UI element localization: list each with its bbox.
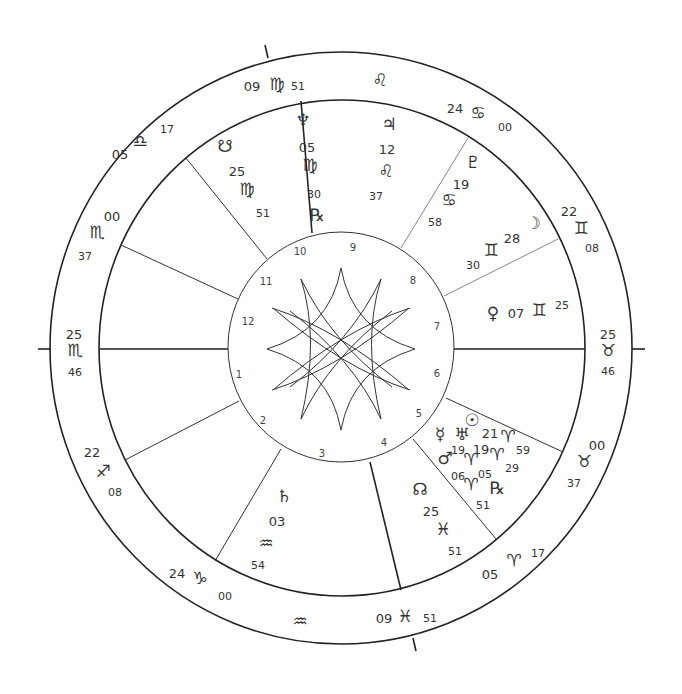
aries-icon: ♈ (500, 428, 515, 445)
mc-minutes: 51 (291, 81, 305, 92)
retrograde-icon: ℞ (309, 207, 324, 224)
dsc-minutes: 46 (601, 366, 615, 377)
ic-minutes: 51 (423, 613, 437, 624)
saturn-minutes: 54 (251, 560, 265, 571)
virgo-icon: ♍ (302, 157, 317, 174)
cusp-9-minutes: 00 (498, 122, 512, 133)
libra-icon: ♎ (132, 133, 147, 150)
aries-icon: ♈ (463, 451, 478, 468)
retrograde-icon: ℞ (489, 480, 504, 497)
cusp-8 (444, 239, 558, 296)
capricorn-icon: ♑ (192, 570, 207, 587)
gemini-icon: ♊ (573, 220, 588, 237)
virgo-icon: ♍ (239, 181, 254, 198)
moon-degree: 28 (504, 232, 521, 245)
natal-chart-wheel (0, 0, 682, 694)
virgo-icon: ♍ (269, 76, 284, 93)
mc-degree: 09 (244, 80, 261, 93)
jupiter-minutes: 37 (369, 191, 383, 202)
cusp-8-degree: 22 (561, 205, 578, 218)
position-minutes: 51 (476, 500, 490, 511)
sagittarius-icon: ♐ (95, 463, 110, 480)
cusp-2 (125, 401, 239, 460)
neptune-icon: ♆ (295, 112, 310, 129)
ic-axis (370, 462, 401, 590)
cusp-12-degree: 00 (104, 210, 121, 223)
south-node-icon: ☋ (217, 138, 232, 155)
cusp-5-degree: 05 (482, 568, 499, 581)
cusp-9 (401, 138, 468, 248)
neptune-minutes: 30 (307, 189, 321, 200)
aries-icon: ♈ (489, 446, 504, 463)
cusp-11 (186, 158, 267, 259)
asc-minutes: 46 (68, 367, 82, 378)
scorpio-icon: ♏ (67, 342, 82, 359)
house-number-4: 4 (381, 438, 387, 448)
scorpio-icon: ♏ (89, 224, 104, 241)
venus-minutes: 25 (555, 300, 569, 311)
house-number-10: 10 (294, 247, 307, 257)
uranus-icon: ♅ (454, 426, 469, 443)
cancer-icon: ♋ (470, 105, 485, 122)
house-number-6: 6 (434, 369, 440, 379)
cusp-3-degree: 24 (169, 567, 186, 580)
cusp-8-minutes: 08 (585, 243, 599, 254)
pluto-icon: ♇ (465, 154, 480, 171)
south-node-degree: 25 (229, 165, 246, 178)
house-number-2: 2 (260, 416, 266, 426)
aspect-star-pattern (267, 268, 415, 430)
house-number-9: 9 (350, 243, 356, 253)
jupiter-icon: ♃ (381, 116, 396, 133)
moon-minutes: 30 (466, 260, 480, 271)
pisces-icon: ♓ (397, 608, 412, 625)
cusp-6-minutes: 37 (567, 478, 581, 489)
aquarius-icon: ♒ (292, 613, 307, 630)
venus-degree: 07 (508, 307, 525, 320)
north-node-icon: ☊ (412, 481, 427, 498)
ic-tick (413, 638, 416, 651)
house-number-11: 11 (260, 277, 273, 287)
mc-tick (265, 45, 268, 58)
gemini-icon: ♊ (531, 302, 546, 319)
venus-icon: ♀ (487, 305, 499, 322)
cusp-9-degree: 24 (447, 102, 464, 115)
aries-icon: ♈ (506, 552, 521, 569)
north-node-minutes: 51 (448, 546, 462, 557)
taurus-icon: ♉ (576, 453, 591, 470)
leo-icon: ♌ (372, 72, 387, 89)
sun-minutes: 59 (516, 445, 530, 456)
pisces-icon: ♓ (435, 521, 450, 538)
taurus-icon: ♉ (600, 342, 615, 359)
saturn-icon: ♄ (276, 488, 291, 505)
aries-icon: ♈ (463, 476, 478, 493)
mercury-icon: ☿ (435, 426, 445, 443)
cusp-5-minutes: 17 (531, 548, 545, 559)
cusp-12 (121, 245, 238, 299)
house-number-1: 1 (236, 370, 242, 380)
house-number-5: 5 (416, 409, 422, 419)
cusp-11-degree: 05 (112, 148, 129, 161)
house-number-8: 8 (410, 276, 416, 286)
aquarius-icon: ♒ (258, 535, 273, 552)
pluto-minutes: 58 (428, 217, 442, 228)
moon-icon: ☽ (525, 215, 540, 232)
gemini-icon: ♊ (483, 242, 498, 259)
cusp-12-minutes: 37 (78, 251, 92, 262)
middle-house-ring (99, 100, 585, 596)
north-node-degree: 25 (423, 505, 440, 518)
cancer-icon: ♋ (441, 192, 456, 209)
jupiter-degree: 12 (379, 143, 396, 156)
cusp-2-degree: 22 (84, 446, 101, 459)
house-number-3: 3 (319, 449, 325, 459)
house-number-7: 7 (434, 322, 440, 332)
cusp-3-minutes: 00 (218, 591, 232, 602)
cusp-11-minutes: 17 (160, 124, 174, 135)
uranus-minutes: 29 (505, 463, 519, 474)
saturn-degree: 03 (269, 515, 286, 528)
cusp-2-minutes: 08 (108, 487, 122, 498)
sun-degree: 21 (482, 427, 499, 440)
house-number-12: 12 (242, 317, 255, 327)
leo-icon: ♌ (378, 163, 393, 180)
ic-degree: 09 (376, 612, 393, 625)
south-node-minutes: 51 (256, 208, 270, 219)
